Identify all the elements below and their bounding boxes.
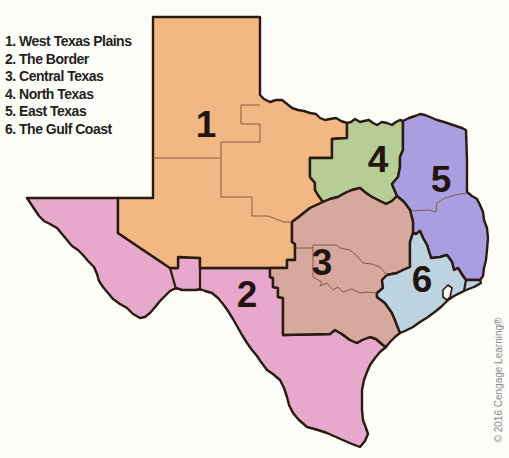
region-label-1: 1 <box>196 104 217 145</box>
region-label-2: 2 <box>237 274 258 315</box>
copyright-notice: © 2016 Cengage Learning® <box>493 310 505 450</box>
region-label-3: 3 <box>312 242 333 283</box>
region-label-5: 5 <box>431 159 452 200</box>
region-label-6: 6 <box>412 259 433 300</box>
region-label-4: 4 <box>368 139 389 180</box>
texas-regions-map: 1 2 3 4 5 6 <box>0 0 509 458</box>
